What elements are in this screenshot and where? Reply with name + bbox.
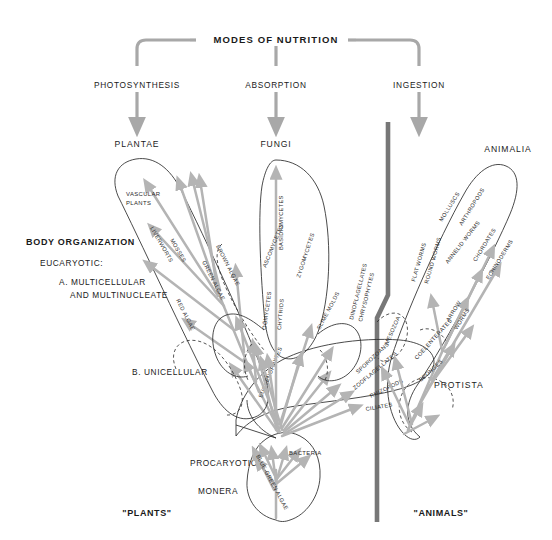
kingdom-label-animalia: ANIMALIA: [484, 144, 531, 154]
group-label-arthropods: ARTHROPODS: [458, 187, 486, 227]
kingdom-label-fungi: FUNGI: [260, 139, 291, 149]
group-label-rhizopods: RHIZOPODS: [369, 378, 404, 399]
legend-procaryotic: PROCARYOTIC: [190, 458, 257, 468]
group-label-plants: PLANTS: [126, 200, 151, 206]
mode-label-photosynthesis: PHOTOSYNTHESIS: [94, 80, 180, 90]
five-kingdom-tree-diagram: MODES OF NUTRITION PHOTOSYNTHESIS ABSORP…: [0, 0, 552, 540]
modes-of-nutrition-header: MODES OF NUTRITION PHOTOSYNTHESIS ABSORP…: [94, 34, 445, 127]
plantae-oval: [115, 159, 268, 419]
group-label-vascular: VASCULAR: [126, 191, 161, 197]
legend-unicellular: B. UNICELLULAR: [132, 367, 208, 377]
slime-molds-lobe: [318, 324, 361, 381]
group-label-bacteria: BACTERIA: [289, 450, 322, 456]
mode-label-absorption: ABSORPTION: [245, 80, 306, 90]
monera-group: BACTERIA BLUE-GREEN ALGAE: [247, 432, 322, 521]
animalia-group: MOLLUSCS ARTHROPODS ANNELID WORMS CHORDA…: [384, 164, 517, 439]
kingdom-label-monera: MONERA: [198, 486, 238, 496]
group-label-zygomycetes: ZYGOMYCETES: [295, 232, 315, 278]
protista-join: [236, 425, 276, 438]
red-algae-subdivision: [173, 340, 242, 415]
group-label-liverworts: LIVERWORTS: [149, 226, 174, 264]
header-branch-left: [137, 40, 190, 66]
group-label-mesozoa: MESOZOA: [383, 315, 401, 345]
plantae-group: VASCULAR PLANTS MOSSES LIVERWORTS BROWN …: [115, 159, 268, 419]
page-title: MODES OF NUTRITION: [214, 34, 339, 45]
group-label-chordates: CHORDATES: [472, 227, 497, 262]
fungi-group: BASIDIOMYCETES ASCOMYCETES ZYGOMYCETES O…: [213, 160, 361, 430]
legend-multicellular: A. MULTICELLULAR: [59, 277, 146, 287]
bottom-label-plants: "PLANTS": [122, 508, 171, 518]
bottom-label-animals: "ANIMALS": [414, 508, 469, 518]
mode-label-ingestion: INGESTION: [393, 80, 445, 90]
kingdom-label-plantae: PLANTAE: [115, 139, 160, 149]
group-label-basidiomycetes: BASIDIOMYCETES: [278, 195, 284, 250]
legend-eucaryotic: EUCARYOTIC:: [40, 258, 103, 268]
group-label-red-algae: RED ALGAE: [175, 298, 196, 332]
group-label-echinoderms: ECHINODERMS: [485, 238, 514, 280]
header-branch-right: [356, 40, 419, 66]
legend-multinucleate: AND MULTINUCLEATE: [70, 290, 168, 300]
legend-heading-body-organization: BODY ORGANIZATION: [26, 237, 135, 247]
body-organization-legend: BODY ORGANIZATION EUCARYOTIC: A. MULTICE…: [26, 237, 257, 468]
group-label-chytrids: CHYTRIDS: [276, 298, 285, 330]
plant-animal-divider-line: [377, 122, 388, 522]
group-label-brown-algae: BROWN ALGAE: [215, 244, 241, 287]
diagram-canvas: MODES OF NUTRITION PHOTOSYNTHESIS ABSORP…: [0, 0, 552, 540]
